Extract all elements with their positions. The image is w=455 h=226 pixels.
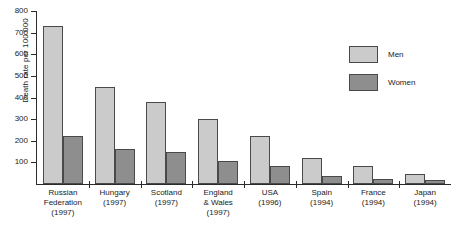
- x-axis-label-line: (1997): [141, 198, 193, 208]
- bar-group: [348, 11, 400, 184]
- y-tick-label-800: 800: [2, 6, 28, 15]
- x-axis-label-line: France: [348, 188, 400, 198]
- legend-label: Men: [388, 50, 404, 59]
- legend-label: Women: [388, 78, 415, 87]
- y-tick-label-300: 300: [2, 114, 28, 123]
- bar-women: [322, 176, 342, 184]
- y-tick-label-500: 500: [2, 71, 28, 80]
- y-tick-400: [31, 98, 36, 99]
- category-separator: [192, 181, 193, 188]
- y-tick-100: [31, 162, 36, 163]
- x-axis-label-line: (1997): [192, 208, 244, 218]
- x-axis-label-line: (1994): [399, 198, 451, 208]
- bar-women: [425, 180, 445, 184]
- x-axis-label-line: England: [192, 188, 244, 198]
- bar-men: [146, 102, 166, 184]
- category-separator: [399, 181, 400, 188]
- y-tick-label-700: 700: [2, 28, 28, 37]
- bar-women: [166, 152, 186, 184]
- x-axis-label: Japan(1994): [399, 188, 451, 208]
- x-axis-label: England& Wales(1997): [192, 188, 244, 218]
- y-tick-label-600: 600: [2, 49, 28, 58]
- bar-men: [198, 119, 218, 184]
- y-tick-200: [31, 141, 36, 142]
- x-axis-label-line: (1996): [244, 198, 296, 208]
- x-axis-label-line: (1997): [89, 198, 141, 208]
- x-axis-label: France(1994): [348, 188, 400, 208]
- bar-men: [302, 158, 322, 184]
- y-tick-label-400: 400: [2, 93, 28, 102]
- y-tick-label-100: 100: [2, 157, 28, 166]
- bar-group: [141, 11, 193, 184]
- legend-swatch: [349, 46, 378, 63]
- category-separator: [296, 181, 297, 188]
- x-axis-label-line: (1994): [296, 198, 348, 208]
- x-axis-label: Hungary(1997): [89, 188, 141, 208]
- bar-men: [95, 87, 115, 184]
- x-axis-label: USA(1996): [244, 188, 296, 208]
- x-axis-label-line: Scotland: [141, 188, 193, 198]
- category-separator: [89, 181, 90, 188]
- x-axis-label-line: USA: [244, 188, 296, 198]
- bar-group: [296, 11, 348, 184]
- category-separator: [141, 181, 142, 188]
- x-axis-label: RussianFederation(1997): [37, 188, 89, 218]
- bar-group: [399, 11, 451, 184]
- plot-area: [37, 11, 451, 184]
- bar-group: [89, 11, 141, 184]
- category-separator: [244, 181, 245, 188]
- bar-women: [270, 166, 290, 184]
- bar-group: [244, 11, 296, 184]
- chart-figure: Death rate per 100 000 10020030040050060…: [0, 0, 455, 226]
- x-axis-label-line: Federation: [37, 198, 89, 208]
- bar-women: [218, 161, 238, 184]
- category-separator: [348, 181, 349, 188]
- bar-women: [115, 149, 135, 184]
- y-tick-500: [31, 76, 36, 77]
- x-axis-label: Scotland(1997): [141, 188, 193, 208]
- x-axis-label-line: Japan: [399, 188, 451, 198]
- bar-women: [63, 136, 83, 184]
- bar-women: [373, 179, 393, 184]
- y-tick-label-200: 200: [2, 136, 28, 145]
- y-tick-700: [31, 33, 36, 34]
- x-axis-label-line: (1997): [37, 208, 89, 218]
- bar-men: [250, 136, 270, 184]
- x-axis-label-line: Hungary: [89, 188, 141, 198]
- y-tick-300: [31, 119, 36, 120]
- y-tick-800: [31, 11, 36, 12]
- y-tick-600: [31, 54, 36, 55]
- bar-men: [353, 166, 373, 184]
- x-axis-label-line: & Wales: [192, 198, 244, 208]
- bar-men: [405, 174, 425, 184]
- x-axis-label: Spain(1994): [296, 188, 348, 208]
- bar-group: [37, 11, 89, 184]
- bar-men: [43, 26, 63, 184]
- x-axis-label-line: Spain: [296, 188, 348, 198]
- legend-swatch: [349, 74, 378, 91]
- x-axis-label-line: Russian: [37, 188, 89, 198]
- bar-group: [192, 11, 244, 184]
- x-axis-label-line: (1994): [348, 198, 400, 208]
